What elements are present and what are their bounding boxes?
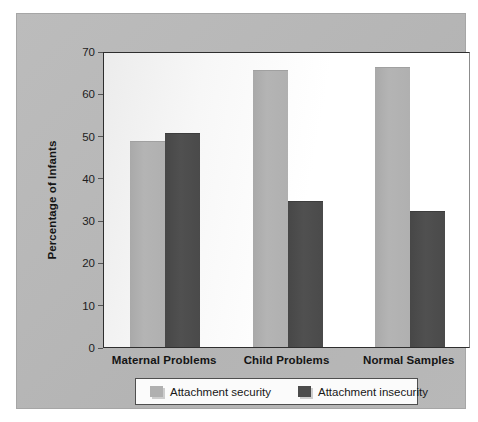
y-axis-tick-label: 40 bbox=[69, 173, 95, 185]
legend-item-attachment-security: Attachment security bbox=[150, 379, 271, 404]
legend-label: Attachment insecurity bbox=[318, 386, 428, 398]
y-axis-tick-label: 30 bbox=[69, 215, 95, 227]
bar bbox=[165, 133, 200, 347]
x-axis-category-label: Maternal Problems bbox=[112, 354, 217, 366]
legend-item-attachment-insecurity: Attachment insecurity bbox=[298, 379, 428, 404]
chart-panel: Percentage of Infants 010203040506070 Ma… bbox=[16, 13, 466, 409]
y-axis-title: Percentage of Infants bbox=[46, 52, 64, 348]
bar bbox=[288, 201, 323, 347]
bar bbox=[410, 211, 445, 347]
y-axis-tick-label: 0 bbox=[69, 342, 95, 354]
legend-swatch-icon bbox=[150, 386, 163, 397]
y-axis-tick-label: 50 bbox=[69, 131, 95, 143]
legend-label: Attachment security bbox=[170, 386, 271, 398]
bar bbox=[130, 141, 165, 347]
bar bbox=[253, 70, 288, 347]
chart-figure: Percentage of Infants 010203040506070 Ma… bbox=[0, 0, 478, 422]
y-axis-tick-label: 70 bbox=[69, 46, 95, 58]
x-axis-category-label: Normal Samples bbox=[363, 354, 455, 366]
plot-area bbox=[103, 52, 470, 348]
bar bbox=[375, 67, 410, 347]
chart-legend: Attachment security Attachment insecurit… bbox=[135, 378, 418, 405]
y-axis-tick-label: 20 bbox=[69, 257, 95, 269]
y-axis-tick-label: 60 bbox=[69, 88, 95, 100]
x-axis-category-label: Child Problems bbox=[244, 354, 330, 366]
y-axis-tick-label: 10 bbox=[69, 300, 95, 312]
legend-swatch-icon bbox=[298, 386, 311, 397]
